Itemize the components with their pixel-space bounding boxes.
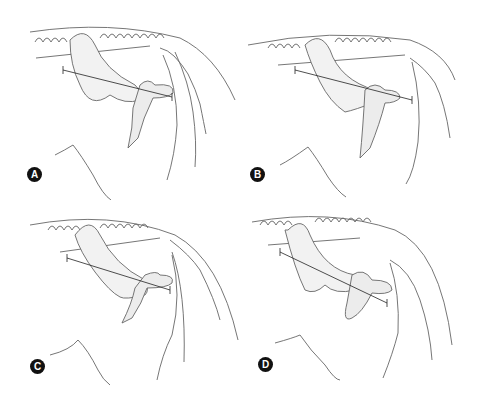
panel-label-badge: A	[27, 167, 42, 182]
panel-d: D	[240, 200, 480, 400]
panel-c: C	[0, 200, 240, 400]
panel-label-badge: C	[30, 359, 45, 374]
shoulder-illustration-b	[240, 0, 480, 200]
shoulder-illustration-d	[240, 200, 480, 400]
panel-b: B	[240, 0, 480, 200]
panel-a: A	[0, 0, 240, 200]
panel-label-badge: B	[250, 167, 265, 182]
panel-label-badge: D	[258, 357, 273, 372]
